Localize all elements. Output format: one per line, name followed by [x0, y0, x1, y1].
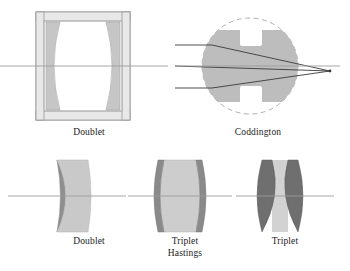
- diagram-triplet-hastings: [128, 160, 232, 232]
- caption-doublet-top: Doublet: [34, 127, 144, 139]
- coddington-focal-point: [329, 70, 332, 73]
- diagram-coddington: [175, 18, 340, 114]
- caption-triplet-right: Triplet: [230, 236, 340, 248]
- lens-figure: Doublet Coddington Doublet Triplet Hasti…: [0, 0, 350, 271]
- caption-coddington: Coddington: [198, 127, 318, 139]
- caption-doublet-bottom: Doublet: [34, 236, 144, 248]
- diagram-triplet-right: [236, 160, 334, 232]
- diagram-doublet-bottom: [8, 160, 126, 232]
- doublet-mount-top-bar: [36, 12, 130, 21]
- diagram-doublet-top: [0, 12, 168, 120]
- caption-triplet-hastings: Triplet Hastings: [130, 236, 240, 259]
- doublet-mount-bottom-bar: [36, 111, 130, 120]
